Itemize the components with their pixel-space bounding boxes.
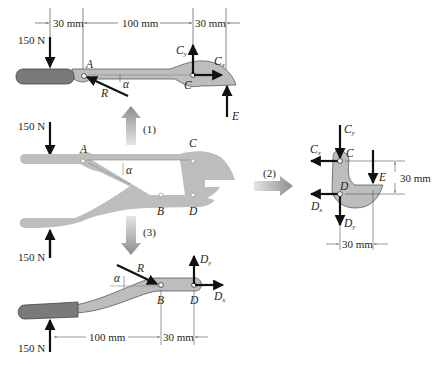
label-r: R — [100, 87, 108, 99]
bottom-dim-30mm: 30 mm — [163, 331, 194, 343]
bottom-force-label-150n: 150 N — [18, 342, 45, 354]
label-cx: Cx — [214, 55, 226, 69]
flow-label-3: (3) — [143, 226, 156, 239]
jaw-pin-c — [338, 159, 343, 164]
bottom-label-dx: Dx — [213, 290, 226, 304]
jaw-label-d: D — [339, 180, 349, 192]
bottom-pin-b — [159, 283, 164, 288]
top-handle-fbd: 30 mm 100 mm 30 mm 150 N R α A C Cy Cx E — [16, 8, 240, 122]
assembly-label-d: D — [188, 205, 198, 217]
bottom-handle-body — [76, 278, 201, 313]
force-label-150n-top: 150 N — [18, 120, 45, 132]
flow-label-1: (1) — [143, 123, 156, 136]
dim-100mm: 100 mm — [122, 17, 159, 29]
flow-arrow-up: (1) — [121, 106, 156, 145]
bottom-dim-100mm: 100 mm — [89, 331, 126, 343]
jaw-pin-d — [338, 192, 343, 197]
jaw-label-cy: Cy — [344, 123, 356, 137]
assembly-pin-a — [81, 159, 85, 163]
jaw-dim-horizontal: 30 mm — [342, 238, 373, 250]
bottom-handle-fbd: α R B D Dy Dx 100 mm 30 mm 150 N — [18, 240, 226, 354]
assembly-label-a: A — [79, 143, 88, 155]
jaw-label-dy: Dy — [343, 217, 356, 231]
label-alpha: α — [123, 78, 130, 90]
bottom-label-alpha: α — [114, 272, 121, 284]
dim-30mm-left: 30 mm — [53, 17, 84, 29]
label-e: E — [231, 110, 239, 122]
bottom-label-b: B — [157, 294, 164, 306]
flow-arrow-right: (2) — [254, 167, 293, 196]
pliers-free-body-diagram: 30 mm 100 mm 30 mm 150 N R α A C Cy Cx E… — [0, 0, 435, 371]
assembly-pin-c — [191, 159, 195, 163]
flow-arrow-down: (3) — [121, 216, 156, 255]
dim-30mm-right: 30 mm — [195, 17, 226, 29]
jaw-dim-vertical: 30 mm — [400, 172, 431, 184]
jaw-label-c: C — [346, 147, 354, 159]
label-c: C — [184, 79, 192, 91]
jaw-fbd: 30 mm 30 mm Cy Cx C E Dx Dy D — [310, 123, 431, 250]
force-label-150n-bottom: 150 N — [18, 251, 45, 263]
label-a: A — [85, 58, 94, 70]
assembly-pin-d — [191, 193, 195, 197]
top-handle-body — [72, 61, 236, 87]
assembly-label-b: B — [157, 205, 164, 217]
assembly-pin-b — [159, 193, 163, 197]
jaw-label-cx: Cx — [310, 143, 322, 157]
assembly-label-alpha: α — [126, 164, 133, 176]
assembly-label-c: C — [189, 137, 197, 149]
label-cy: Cy — [176, 44, 188, 58]
top-handle-grip — [16, 69, 74, 84]
bottom-label-r: R — [136, 262, 144, 274]
pin-a — [82, 74, 87, 79]
flow-label-2: (2) — [263, 167, 276, 180]
force-label-150n: 150 N — [18, 34, 45, 46]
bottom-handle-grip — [18, 302, 78, 319]
jaw-label-dx: Dx — [310, 200, 323, 214]
jaw-label-e: E — [378, 171, 386, 183]
bottom-label-dy: Dy — [199, 253, 212, 267]
